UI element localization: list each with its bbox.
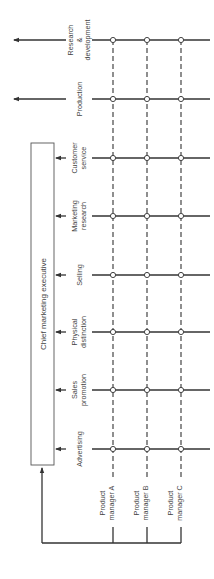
intersection-node <box>110 272 115 277</box>
intersection-node <box>178 213 183 218</box>
intersection-node <box>144 387 149 392</box>
intersection-node <box>110 96 115 101</box>
intersection-node <box>178 446 183 451</box>
intersection-node <box>144 155 149 160</box>
chief-marketing-executive-label: Chief marketing executive <box>39 257 48 350</box>
intersection-node <box>178 272 183 277</box>
intersection-node <box>144 96 149 101</box>
function-research-label: development <box>83 19 92 60</box>
intersection-node <box>110 37 115 42</box>
intersection-node <box>110 329 115 334</box>
function-production-label: Production <box>75 82 84 116</box>
intersection-node <box>144 446 149 451</box>
intersection-node <box>178 387 183 392</box>
intersection-node <box>144 272 149 277</box>
intersection-node <box>178 96 183 101</box>
intersection-node <box>144 329 149 334</box>
intersection-node <box>178 155 183 160</box>
function-sales-promotion-label: promotion <box>79 374 88 406</box>
intersection-node <box>110 387 115 392</box>
function-customer-service-label: service <box>79 147 88 170</box>
product-manager-a-label: manager A <box>107 485 116 520</box>
function-marketing-research-label: research <box>79 202 88 230</box>
intersection-node <box>178 37 183 42</box>
intersection-node <box>178 329 183 334</box>
product-manager-b-label: manager B <box>141 485 150 520</box>
intersection-node <box>144 37 149 42</box>
product-manager-c-label: manager C <box>175 485 184 521</box>
matrix-organization-diagram: Productmanager AProductmanager BProductm… <box>0 0 214 579</box>
function-physical-distinction-label: distinction <box>79 316 88 348</box>
intersection-node <box>110 155 115 160</box>
function-selling-label: Selling <box>75 264 84 286</box>
intersection-node <box>110 213 115 218</box>
intersection-node <box>144 213 149 218</box>
function-advertising-label: Advertising <box>75 431 84 467</box>
intersection-node <box>110 446 115 451</box>
